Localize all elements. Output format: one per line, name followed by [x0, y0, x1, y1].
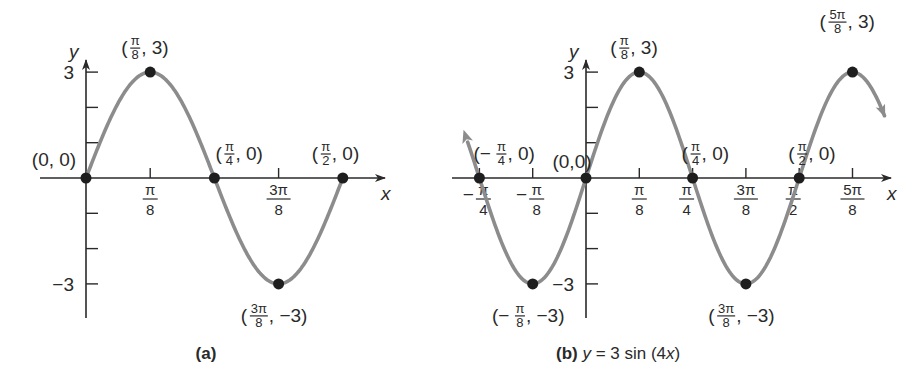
y-axis-label: y — [567, 41, 580, 62]
svg-text:, 3): , 3) — [848, 11, 875, 32]
x-tick-label: 3π8 — [734, 181, 758, 218]
point-label: (−π4, 0) — [473, 139, 534, 168]
svg-text:(−: (− — [492, 305, 509, 326]
svg-text:4: 4 — [682, 201, 690, 218]
svg-text:, −3): , −3) — [736, 305, 775, 326]
key-point — [794, 173, 805, 184]
svg-text:8: 8 — [635, 201, 643, 218]
x-tick-label: −π8 — [516, 181, 544, 218]
svg-text:−: − — [516, 184, 527, 205]
svg-text:5π: 5π — [843, 181, 862, 198]
svg-text:π: π — [681, 181, 691, 198]
svg-text:2: 2 — [799, 153, 806, 168]
svg-text:(: ( — [610, 37, 617, 58]
svg-text:3π: 3π — [737, 181, 756, 198]
svg-text:, 0): , 0) — [235, 143, 262, 164]
point-label: (0, 0) — [32, 149, 76, 170]
x-tick-label: π4 — [679, 181, 694, 218]
sine-graphs-figure: xy3−3π83π8(0, 0)(π8, 3)(π4, 0)(3π8, −3)(… — [0, 0, 924, 375]
x-axis-label: x — [380, 183, 392, 204]
svg-text:π: π — [691, 139, 700, 154]
svg-text:, 3): , 3) — [141, 37, 168, 58]
point-label: (π4, 0) — [215, 139, 262, 168]
svg-text:3π: 3π — [251, 301, 267, 316]
svg-text:(: ( — [708, 305, 715, 326]
svg-text:−: − — [463, 184, 474, 205]
key-point — [847, 67, 858, 78]
svg-text:8: 8 — [274, 201, 282, 218]
point-label: (π8, 3) — [610, 33, 657, 62]
svg-text:4: 4 — [226, 153, 233, 168]
curve-arrow-left-icon — [458, 128, 473, 144]
svg-text:(: ( — [820, 11, 827, 32]
caption-b: (b) y = 3 sin (4x) — [556, 344, 680, 363]
x-axis-label: x — [886, 183, 898, 204]
svg-text:3π: 3π — [718, 301, 734, 316]
svg-text:5π: 5π — [829, 7, 845, 22]
y-tick-label: −3 — [552, 274, 574, 295]
caption-b-end: ) — [675, 344, 681, 363]
point-label: (π8, 3) — [121, 33, 168, 62]
svg-text:(−: (− — [473, 143, 490, 164]
svg-text:8: 8 — [723, 315, 730, 330]
y-tick-label: 3 — [563, 62, 574, 83]
point-label: (3π8, −3) — [708, 301, 775, 330]
key-point — [273, 278, 284, 289]
svg-text:8: 8 — [255, 315, 262, 330]
svg-text:2: 2 — [322, 153, 329, 168]
svg-text:8: 8 — [533, 201, 541, 218]
x-tick-label: 3π8 — [267, 181, 291, 218]
svg-text:, −3): , −3) — [269, 305, 308, 326]
svg-text:4: 4 — [692, 153, 699, 168]
svg-text:8: 8 — [742, 201, 750, 218]
caption-b-eq: = 3 sin (4 — [591, 344, 666, 363]
svg-text:, 0): , 0) — [808, 143, 835, 164]
svg-text:8: 8 — [848, 201, 856, 218]
svg-text:, 0): , 0) — [702, 143, 729, 164]
key-point — [81, 173, 92, 184]
x-tick-label: π8 — [632, 181, 647, 218]
svg-text:3π: 3π — [269, 181, 288, 198]
svg-text:π: π — [532, 181, 542, 198]
point-label: (−π8, −3) — [492, 301, 565, 330]
point-label: (π2, 0) — [788, 139, 835, 168]
svg-text:, 3): , 3) — [630, 37, 657, 58]
caption-b-x: x — [665, 344, 675, 363]
point-label: (π2, 0) — [312, 139, 359, 168]
key-point — [209, 173, 220, 184]
y-axis-label: y — [67, 41, 80, 62]
svg-text:π: π — [798, 139, 807, 154]
svg-text:8: 8 — [146, 201, 154, 218]
caption-a: (a) — [196, 344, 217, 363]
x-tick-label: 5π8 — [841, 181, 865, 218]
y-tick-label: 3 — [63, 62, 74, 83]
key-point — [634, 67, 645, 78]
svg-text:π: π — [131, 33, 140, 48]
key-point — [474, 173, 485, 184]
svg-text:π: π — [620, 33, 629, 48]
point-label: (0,0) — [552, 151, 591, 172]
svg-text:4: 4 — [498, 153, 505, 168]
svg-text:8: 8 — [621, 47, 628, 62]
key-point — [740, 278, 751, 289]
svg-text:, −3): , −3) — [526, 305, 565, 326]
svg-text:8: 8 — [132, 47, 139, 62]
point-label: (3π8, −3) — [241, 301, 308, 330]
svg-text:(: ( — [312, 143, 319, 164]
caption-b-label: (b) — [556, 344, 578, 363]
key-point — [527, 278, 538, 289]
y-tick-label: −3 — [52, 274, 74, 295]
svg-text:π: π — [497, 139, 506, 154]
svg-text:8: 8 — [834, 21, 841, 36]
key-point — [581, 173, 592, 184]
svg-text:(: ( — [788, 143, 795, 164]
svg-text:8: 8 — [516, 315, 523, 330]
key-point — [687, 173, 698, 184]
x-tick-label: π8 — [143, 181, 158, 218]
svg-text:(: ( — [121, 37, 128, 58]
svg-text:π: π — [225, 139, 234, 154]
svg-text:(: ( — [682, 143, 689, 164]
panel-b-graph: xy3−3−π4−π8π8π43π8π25π8(−π4, 0)(−π8, −3)… — [452, 7, 898, 330]
svg-text:, 0): , 0) — [332, 143, 359, 164]
svg-text:π: π — [321, 139, 330, 154]
